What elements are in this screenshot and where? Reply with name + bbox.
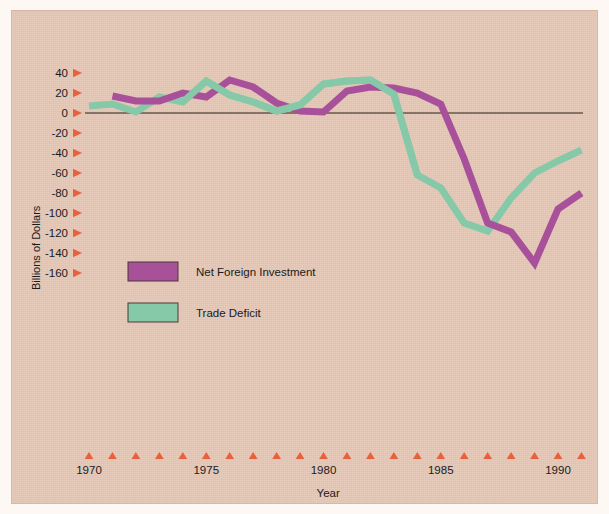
y-tick-arrow-icon — [73, 209, 82, 217]
y-tick-label: -20 — [51, 127, 68, 139]
line-chart-svg: 40200-20-40-60-80-100-120-140-1601970197… — [12, 11, 597, 503]
y-tick-arrow-icon — [73, 129, 82, 137]
y-tick-label: -40 — [51, 147, 68, 159]
x-tick-arrow-icon — [577, 452, 586, 459]
y-tick-label: 0 — [62, 107, 68, 119]
x-tick-arrow-icon — [319, 452, 328, 459]
x-tick-arrow-icon — [343, 452, 352, 459]
y-tick-label: -80 — [51, 187, 68, 199]
legend-swatch — [128, 262, 178, 281]
series-line-trade-deficit-overlay — [183, 80, 417, 175]
y-tick-label: 40 — [55, 67, 68, 79]
y-tick-label: -140 — [45, 247, 68, 259]
x-tick-label: 1985 — [428, 464, 454, 476]
x-tick-arrow-icon — [530, 452, 539, 459]
x-tick-arrow-icon — [483, 452, 492, 459]
x-axis-title: Year — [317, 487, 340, 499]
y-tick-arrow-icon — [73, 249, 82, 257]
x-tick-arrow-icon — [413, 452, 422, 459]
x-tick-arrow-icon — [108, 452, 117, 459]
x-tick-arrow-icon — [249, 452, 258, 459]
legend-label: Trade Deficit — [196, 307, 262, 319]
y-axis-title: Billions of Dollars — [30, 205, 42, 290]
x-tick-label: 1980 — [311, 464, 337, 476]
x-tick-arrow-icon — [460, 452, 469, 459]
x-tick-arrow-icon — [225, 452, 234, 459]
x-tick-arrow-icon — [554, 452, 563, 459]
legend-swatch — [128, 303, 178, 322]
legend-label: Net Foreign Investment — [196, 266, 316, 278]
y-tick-arrow-icon — [73, 109, 82, 117]
y-tick-arrow-icon — [73, 169, 82, 177]
x-tick-arrow-icon — [202, 452, 211, 459]
y-tick-arrow-icon — [73, 69, 82, 77]
y-tick-arrow-icon — [73, 149, 82, 157]
x-tick-label: 1970 — [76, 464, 102, 476]
y-tick-label: -60 — [51, 167, 68, 179]
x-tick-arrow-icon — [155, 452, 164, 459]
x-tick-arrow-icon — [85, 452, 94, 459]
y-tick-arrow-icon — [73, 189, 82, 197]
series-line-net-foreign-investment — [112, 80, 581, 263]
x-tick-arrow-icon — [366, 452, 375, 459]
x-tick-arrow-icon — [296, 452, 305, 459]
x-tick-label: 1975 — [193, 464, 219, 476]
x-tick-arrow-icon — [178, 452, 187, 459]
x-tick-arrow-icon — [132, 452, 141, 459]
y-tick-label: 20 — [55, 87, 68, 99]
y-tick-label: -160 — [45, 267, 68, 279]
x-tick-arrow-icon — [436, 452, 445, 459]
y-tick-arrow-icon — [73, 229, 82, 237]
x-tick-arrow-icon — [507, 452, 516, 459]
y-tick-label: -120 — [45, 227, 68, 239]
y-tick-label: -100 — [45, 207, 68, 219]
y-tick-arrow-icon — [73, 269, 82, 277]
x-tick-arrow-icon — [389, 452, 398, 459]
chart-figure: 40200-20-40-60-80-100-120-140-1601970197… — [12, 11, 597, 503]
x-tick-label: 1990 — [545, 464, 571, 476]
x-tick-arrow-icon — [272, 452, 281, 459]
y-tick-arrow-icon — [73, 89, 82, 97]
